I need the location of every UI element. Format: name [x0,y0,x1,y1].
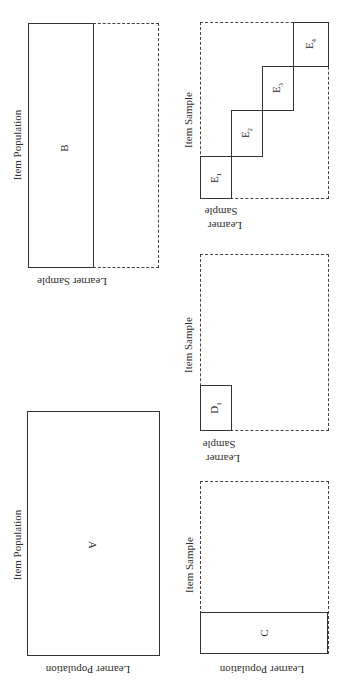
panel-e-block-3-letter: E [270,86,282,93]
panel-e-block-1-subscript: 1 [215,173,223,177]
panel-d-letter: D [208,406,220,414]
panel-e-learner-axis-label-line1: Learner [208,220,242,231]
panel-e-block-2-label: E2 [240,128,254,138]
panel-e-block-1-label: E1 [209,173,223,183]
panel-d-item-axis-label: Item Sample [183,317,194,373]
panel-c-letter: C [259,629,270,636]
panel-d-learner-axis-label-line1: Learner [206,453,240,464]
panel-b-learner-axis-label: Learner Sample [37,276,107,287]
panel-d-learner-axis-label-line2: Sample [203,439,236,450]
panel-a-solid-box [27,411,160,656]
panel-b-dashed-box [93,23,159,268]
panel-e-block-4-subscript: 4 [310,39,318,43]
panel-d-block-1-label: D1 [209,402,223,413]
panel-e-block-2-subscript: 2 [246,128,254,132]
panel-d-subscript: 1 [215,402,223,406]
panel-e-block-3-label: E3 [271,83,285,93]
panel-e-block-2-letter: E [239,131,251,138]
panel-e-block-4-label: E4 [304,39,318,49]
panel-e-block-1-letter: E [208,176,220,183]
panel-e-block-3-subscript: 3 [277,83,285,87]
panel-c-item-axis-label: Item Sample [184,537,195,593]
panel-a-learner-axis-label: Learner Population [46,664,131,675]
panel-e-block-4-letter: E [303,42,315,49]
panel-a-item-axis-label: Item Population [12,510,23,581]
panel-b-letter: B [59,144,70,151]
panel-e-learner-axis-label-line2: Sample [205,206,238,217]
panel-e-item-axis-label: Item Sample [183,92,194,148]
panel-c-learner-axis-label: Learner Population [220,664,305,675]
panel-b-item-axis-label: Item Population [12,110,23,181]
panel-a-letter: A [87,541,98,549]
